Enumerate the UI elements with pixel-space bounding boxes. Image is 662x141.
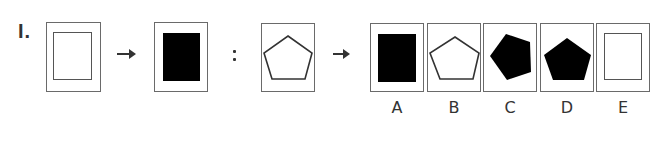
arrow-icon [117,53,134,55]
option-d[interactable] [540,23,594,92]
pentagon-filled-rotated-icon [484,24,538,93]
rectangle-outline-icon [604,33,642,80]
option-label-b: B [427,98,481,117]
option-a[interactable] [370,23,424,92]
stem-figure-1 [46,22,101,92]
colon-icon [233,58,236,61]
stem-figure-2 [154,22,208,92]
pentagon-filled-icon [541,24,595,93]
option-e[interactable] [596,23,650,92]
pentagon-outline-icon [262,24,316,93]
option-b[interactable] [427,23,481,92]
option-label-e: E [596,98,650,117]
rectangle-outline-icon [53,32,92,80]
stem-figure-3 [261,23,315,92]
option-label-a: A [370,98,424,117]
question-number: I. [18,20,31,43]
option-c[interactable] [483,23,537,92]
rectangle-filled-icon [378,34,416,82]
pentagon-outline-icon [428,24,482,93]
option-label-c: C [483,98,537,117]
arrow-icon [333,53,348,55]
option-label-d: D [540,98,594,117]
rectangle-filled-icon [163,33,200,81]
colon-icon [233,50,236,53]
